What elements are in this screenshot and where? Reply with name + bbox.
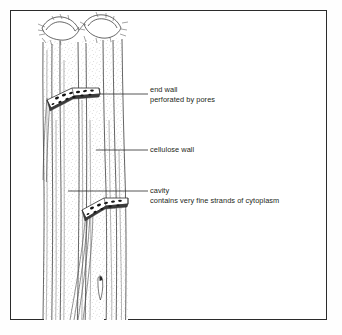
label-cellulose-wall-line1: cellulose wall [150,145,194,155]
sieve-tube-drawing [0,0,342,335]
label-end-wall-line1: end wall [150,85,215,95]
label-end-wall-line2: perforated by pores [150,95,215,105]
figure-canvas: end wall perforated by pores cellulose w… [0,0,342,335]
label-cavity-line2: contains very fine strands of cytoplasm [150,196,279,206]
label-cavity-line1: cavity [150,186,279,196]
label-end-wall: end wall perforated by pores [150,85,215,104]
label-cellulose-wall: cellulose wall [150,145,194,155]
label-cavity: cavity contains very fine strands of cyt… [150,186,279,205]
